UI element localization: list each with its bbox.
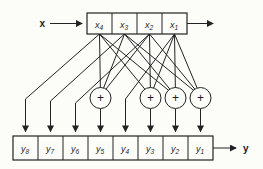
adder-input-x4-y5 — [100, 34, 101, 96]
adder-input-x4-y3 — [100, 34, 151, 96]
input-register: x x4 x3 x2 x1 — [39, 13, 213, 34]
connection-wires — [26, 34, 201, 132]
plus-icon: + — [172, 91, 179, 105]
adder-input-x1-y1 — [175, 34, 201, 96]
mod2-adder-y5: + — [90, 88, 111, 109]
mod2-adder-y3: + — [140, 88, 161, 109]
plus-icon: + — [147, 91, 154, 105]
output-register: y8 y7 y6 y5 y4 y3 y2 y1 y — [13, 136, 249, 160]
mod2-adder-y2: + — [165, 88, 186, 109]
adder-input-x3-y1 — [125, 34, 201, 96]
adder-input-x3-y5 — [101, 34, 125, 96]
encoder-diagram: + + + + x x4 x3 x2 x1 — [0, 0, 263, 169]
input-label: x — [39, 18, 45, 29]
mod2-adders: + + + + — [90, 88, 211, 109]
direct-connection-x3-y7 — [51, 34, 125, 132]
diagram-canvas: + + + + x x4 x3 x2 x1 — [0, 0, 263, 169]
mod2-adder-y1: + — [190, 88, 211, 109]
direct-connection-x4-y8 — [26, 34, 100, 132]
output-label: y — [243, 143, 249, 154]
adder-input-x4-y2 — [100, 34, 176, 96]
plus-icon: + — [97, 91, 104, 105]
plus-icon: + — [197, 91, 204, 105]
